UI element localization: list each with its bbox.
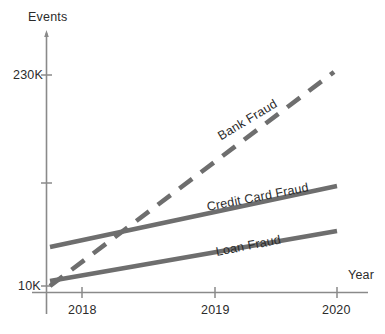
y-axis-tick-label-230k: 230K — [13, 68, 43, 82]
series-line-bank-fraud — [50, 72, 334, 286]
x-axis-tick-label-2020: 2020 — [322, 303, 351, 317]
fraud-events-line-chart: Events Year 230K 10K 2018 2019 2020 Bank… — [0, 0, 385, 334]
y-axis-arrow-icon — [44, 30, 49, 37]
x-axis-title: Year — [348, 268, 374, 282]
y-axis-tick-label-10k: 10K — [18, 279, 41, 293]
chart-plot-area — [0, 0, 385, 334]
x-axis-tick-label-2019: 2019 — [201, 303, 230, 317]
y-axis-title: Events — [28, 10, 67, 24]
x-axis-tick-label-2018: 2018 — [68, 303, 97, 317]
